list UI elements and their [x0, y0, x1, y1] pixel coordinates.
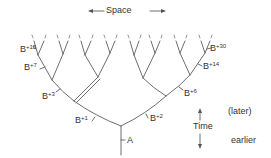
- space-label: Space: [106, 5, 132, 15]
- node-label-b7: B+7: [24, 63, 37, 72]
- arrow-left-icon: [88, 9, 93, 13]
- node-label-b14: B+14: [203, 62, 219, 71]
- node-label-b1: B+1: [75, 116, 88, 125]
- node-label-b30: B+30: [210, 44, 226, 53]
- node-label-b3: B+3: [42, 92, 55, 101]
- time-later-label: (later): [228, 107, 252, 116]
- node-label-b15: B+15: [20, 45, 36, 54]
- time-earlier-label: earlier: [231, 136, 256, 145]
- node-label-b2: B+2: [150, 114, 163, 123]
- arrow-right-icon: [161, 9, 166, 13]
- arrow-down-icon: [198, 144, 202, 149]
- time-axis-label: Time: [193, 122, 213, 131]
- arrow-up-icon: [198, 108, 202, 113]
- node-label-b6: B+6: [184, 89, 197, 98]
- root-label-a: A: [127, 136, 133, 145]
